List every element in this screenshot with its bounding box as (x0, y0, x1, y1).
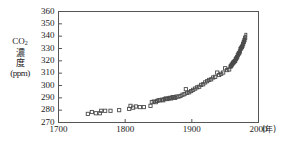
data-point-marker (239, 50, 241, 52)
data-point-marker (244, 36, 246, 38)
y-tick-label: 330 (41, 43, 55, 53)
x-tick-label: 1700 (50, 124, 69, 134)
data-point-marker (245, 33, 247, 35)
data-point-marker (184, 88, 187, 91)
y-tick-label: 360 (41, 6, 55, 16)
data-point-marker (142, 105, 145, 108)
x-tick-label: 1900 (183, 124, 202, 134)
data-point-marker (104, 109, 107, 112)
x-axis-ticks: 1700180019002000 (50, 119, 269, 134)
y-tick-label: 280 (41, 104, 55, 114)
data-point-marker (90, 110, 93, 113)
x-tick-label: 1800 (116, 124, 135, 134)
data-point-marker (149, 104, 152, 107)
data-points (86, 33, 247, 115)
data-point-marker (94, 112, 97, 115)
y-tick-label: 310 (41, 67, 55, 77)
data-point-marker (138, 105, 141, 108)
co2-concentration-chart: CO2 濃 度 (ppm) 27028029030031032033034035… (0, 0, 290, 152)
data-point-marker (118, 109, 121, 112)
y-tick-label: 300 (41, 80, 55, 90)
data-point-marker (109, 109, 112, 112)
y-tick-label: 350 (41, 18, 55, 28)
data-point-marker (86, 112, 89, 115)
y-tick-label: 340 (41, 30, 55, 40)
y-tick-label: 320 (41, 55, 55, 65)
chart-plot-area: 270280290300310320330340350360 170018001… (0, 0, 290, 152)
x-axis-unit-label: (年) (262, 124, 276, 134)
y-tick-label: 290 (41, 92, 55, 102)
